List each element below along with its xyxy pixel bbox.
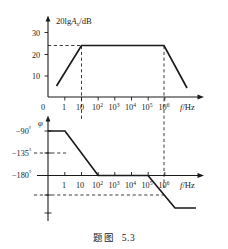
phase-ytick-label-180: −180° [12,170,31,180]
magnitude-x-axis-arrow [198,95,205,100]
phase-xtick-label-1e2: 102 [92,180,103,190]
magnitude-xtick-label-1e6: 106 [159,102,170,112]
phase-ytick-label-135: −135° [12,148,31,158]
phase-xtick-label-1e6: 106 [159,180,170,190]
phase-labels-group: φ −90° −135° −180° 1 10 102 103 104 105 … [12,118,195,190]
phase-x-axis-label: f/Hz [180,180,195,190]
bode-plot-canvas: 20lgAu/dB 30 20 10 0 1 10 102 103 104 10… [0,0,228,249]
figure-caption-number: 5.3 [122,233,135,243]
magnitude-xtick-label-1e4: 104 [125,102,136,112]
magnitude-ytick-label-30: 30 [32,29,40,38]
phase-xtick-label-10: 10 [76,181,84,190]
phase-x-axis-arrow [198,173,205,178]
phase-plot-group [34,116,204,222]
figure-caption: 题图5.3 [0,230,228,244]
phase-xtick-label-1e3: 103 [109,180,120,190]
phase-xtick-label-1e4: 104 [125,180,136,190]
magnitude-xtick-label-1e2: 102 [92,102,103,112]
magnitude-ytick-label-20: 20 [32,51,40,60]
magnitude-xtick-label-1e3: 103 [109,102,120,112]
magnitude-x-axis-label: f/Hz [180,102,195,112]
phase-response-curve [48,131,196,208]
magnitude-ytick-label-10: 10 [32,72,40,81]
magnitude-xtick-label-1: 1 [62,103,66,112]
magnitude-labels-group: 20lgAu/dB 30 20 10 0 1 10 102 103 104 10… [32,16,195,112]
magnitude-response-curve [57,46,188,89]
magnitude-origin-label: 0 [41,103,45,112]
figure-caption-label: 题图 [93,233,115,243]
bode-plot-figure: 20lgAu/dB 30 20 10 0 1 10 102 103 104 10… [0,0,228,249]
phase-y-axis-arrow [46,116,51,122]
magnitude-y-axis-label: 20lgAu/dB [56,16,92,27]
magnitude-xtick-label-10: 10 [76,103,84,112]
phase-ytick-label-90: −90° [16,126,31,136]
magnitude-y-axis-arrow [46,16,51,22]
phase-xtick-label-1: 1 [62,181,66,190]
phase-y-axis-label: φ [38,118,43,128]
phase-xtick-label-1e5: 105 [142,180,153,190]
magnitude-xtick-label-1e5: 105 [142,102,153,112]
